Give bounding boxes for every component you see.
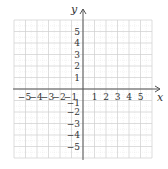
y-tick-label: −3: [67, 119, 81, 129]
x-tick-label: 3: [115, 92, 121, 102]
x-tick-label: 1: [92, 92, 98, 102]
y-tick-label: −4: [67, 130, 81, 140]
y-tick-label: −5: [67, 142, 81, 152]
y-tick-label: 2: [74, 61, 80, 71]
x-tick-label: 2: [103, 92, 109, 102]
y-axis-label: y: [70, 3, 78, 16]
y-tick-label: −2: [67, 107, 80, 117]
x-axis-label: x: [157, 91, 164, 104]
y-tick-label: 3: [74, 50, 80, 60]
x-tick-label: 4: [126, 92, 132, 102]
y-tick-label: 5: [74, 27, 80, 37]
x-tick-label: 5: [138, 92, 144, 102]
coordinate-plane: x y −5−4−3−2−112345 54321−1−2−3−4−5: [0, 0, 168, 169]
y-tick-label: −1: [67, 98, 80, 108]
y-tick-label: 1: [74, 73, 80, 83]
y-tick-label: 4: [74, 38, 80, 48]
